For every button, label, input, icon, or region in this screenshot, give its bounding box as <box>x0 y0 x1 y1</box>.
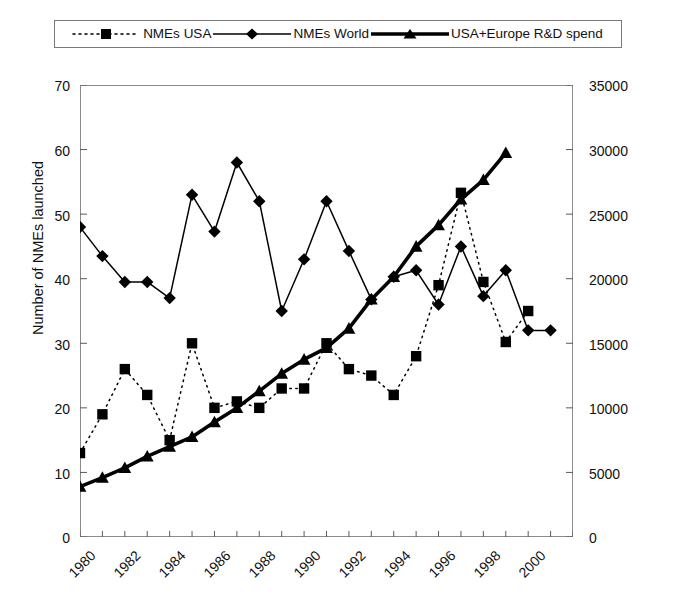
series-line <box>80 193 528 453</box>
legend-entry-nmes-usa: NMEs USA <box>71 21 213 47</box>
data-point-diamond <box>455 240 467 252</box>
data-point-square <box>299 383 309 393</box>
data-point-square <box>366 370 376 380</box>
data-point-square <box>97 409 107 419</box>
data-point-square <box>254 403 264 413</box>
data-point-square <box>142 390 152 400</box>
y-left-tick-40: 40 <box>26 273 70 287</box>
data-point-diamond <box>208 225 220 237</box>
data-point-square <box>389 390 399 400</box>
y-left-tick-30: 30 <box>26 338 70 352</box>
data-point-square <box>187 338 197 348</box>
y-left-tick-50: 50 <box>26 209 70 223</box>
data-point-diamond <box>432 298 444 310</box>
data-point-square <box>209 403 219 413</box>
y-left-tick-70: 70 <box>26 79 70 93</box>
legend-label-nmes-usa: NMEs USA <box>141 27 213 41</box>
x-tick-1998: 1998 <box>451 548 503 600</box>
data-point-diamond <box>410 264 422 276</box>
y-right-tick-5000: 5000 <box>589 467 645 481</box>
x-tick-1984: 1984 <box>136 548 188 600</box>
data-point-diamond <box>231 156 243 168</box>
data-point-square <box>344 364 354 374</box>
y-right-tick-35000: 35000 <box>589 79 645 93</box>
legend-entry-rd-spend: USA+Europe R&D spend <box>371 21 605 47</box>
series-line <box>80 163 551 331</box>
data-series-layer <box>80 146 557 491</box>
data-point-square <box>120 364 130 374</box>
y-left-tick-0: 0 <box>26 531 70 545</box>
x-tick-1994: 1994 <box>361 548 413 600</box>
y-left-tick-60: 60 <box>26 144 70 158</box>
x-tick-1996: 1996 <box>406 548 458 600</box>
data-point-square <box>411 351 421 361</box>
y-right-tick-0: 0 <box>589 531 645 545</box>
chart-plot <box>80 85 573 537</box>
y-left-tick-10: 10 <box>26 467 70 481</box>
series-line <box>80 153 506 487</box>
y-left-tick-20: 20 <box>26 402 70 416</box>
x-tick-2000: 2000 <box>496 548 548 600</box>
data-point-diamond <box>320 195 332 207</box>
series-nmes-usa <box>80 188 533 459</box>
x-tick-1990: 1990 <box>271 548 323 600</box>
legend-label-rd-spend: USA+Europe R&D spend <box>449 27 605 41</box>
data-point-diamond <box>343 245 355 257</box>
legend-entry-nmes-world: NMEs World <box>213 21 371 47</box>
data-point-square <box>523 306 533 316</box>
y-right-tick-25000: 25000 <box>589 209 645 223</box>
data-point-square <box>501 337 511 347</box>
data-point-diamond <box>186 189 198 201</box>
data-point-diamond <box>544 324 556 336</box>
chart-legend: NMEs USA NMEs World USA+Europe R&D spend <box>54 20 622 48</box>
data-point-square <box>433 280 443 290</box>
data-point-diamond <box>298 253 310 265</box>
y-right-tick-30000: 30000 <box>589 144 645 158</box>
data-point-triangle <box>499 146 512 158</box>
data-point-diamond <box>163 292 175 304</box>
x-tick-1992: 1992 <box>316 548 368 600</box>
series-usa-europe-r-d-spend <box>80 146 512 491</box>
legend-marker-triangle-thick <box>371 27 449 41</box>
y-right-tick-15000: 15000 <box>589 338 645 352</box>
x-tick-1986: 1986 <box>181 548 233 600</box>
legend-marker-diamond-solid <box>213 27 291 41</box>
data-point-square <box>80 448 85 458</box>
data-point-diamond <box>141 276 153 288</box>
data-point-square <box>276 383 286 393</box>
x-tick-1982: 1982 <box>91 548 143 600</box>
y-right-tick-20000: 20000 <box>589 273 645 287</box>
y-right-tick-10000: 10000 <box>589 402 645 416</box>
data-point-diamond <box>522 324 534 336</box>
axis-ticks-layer <box>80 85 573 537</box>
legend-label-nmes-world: NMEs World <box>291 27 371 41</box>
data-point-diamond <box>253 195 265 207</box>
data-point-square <box>478 277 488 287</box>
x-tick-1980: 1980 <box>46 548 98 600</box>
data-point-diamond <box>275 305 287 317</box>
legend-marker-square-dotted <box>71 27 141 41</box>
x-tick-1988: 1988 <box>226 548 278 600</box>
